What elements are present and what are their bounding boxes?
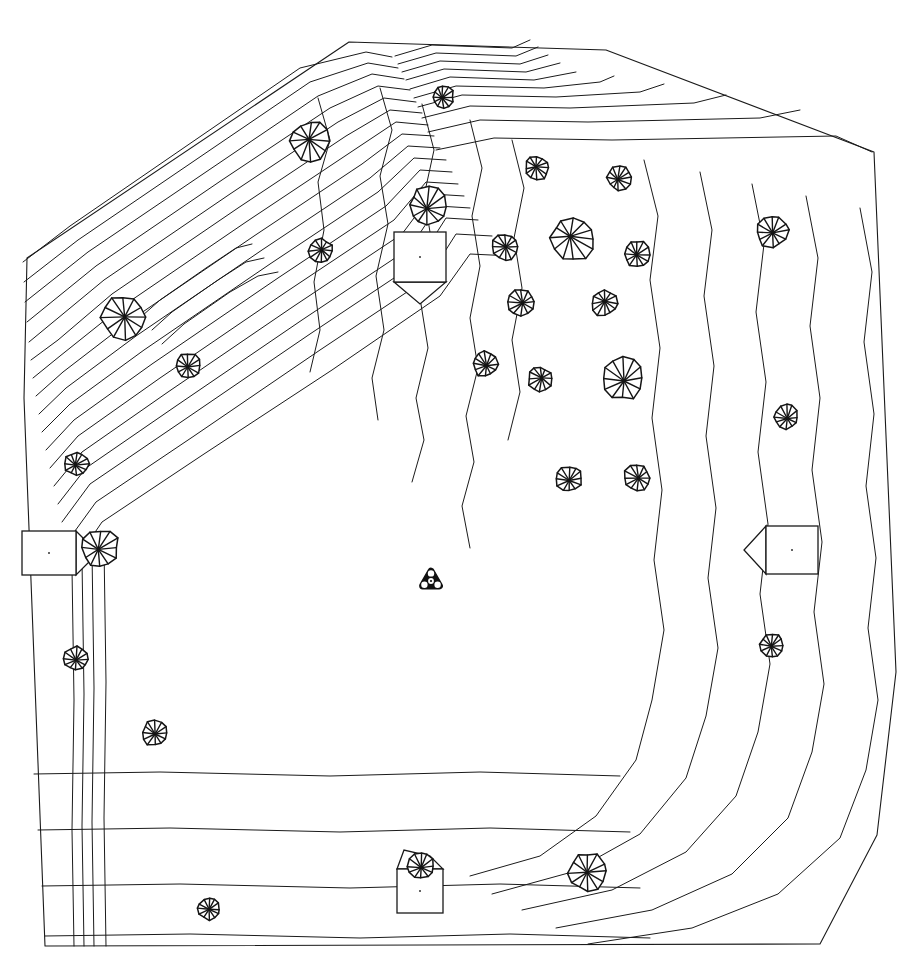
benchmark-lobe — [421, 582, 427, 588]
tree-center-e1[interactable] — [625, 242, 650, 267]
tree-trunk-dot — [425, 207, 428, 210]
benchmark-center-dot — [430, 580, 432, 582]
tree-trunk-dot — [97, 548, 100, 551]
benchmark-lobe — [434, 582, 440, 588]
tree-trunk-dot — [123, 315, 126, 318]
tree-center-s1[interactable] — [556, 467, 581, 490]
tree-southwest[interactable] — [143, 720, 167, 745]
tree-spoke — [787, 418, 797, 419]
tree-center-mid[interactable] — [529, 367, 552, 392]
tree-north-ridge[interactable] — [433, 86, 453, 108]
building-footprint-west-center-dot — [48, 552, 50, 554]
tree-center-w2[interactable] — [508, 290, 534, 316]
building-footprint-east-center-dot — [791, 549, 793, 551]
tree-center-s2[interactable] — [625, 465, 650, 491]
tree-south-house[interactable] — [407, 853, 433, 878]
tree-trunk-dot — [154, 733, 156, 735]
tree-spoke — [100, 317, 125, 318]
tree-trunk-dot — [535, 166, 537, 168]
tree-trunk-dot — [505, 246, 507, 248]
tree-trunk-dot — [441, 97, 443, 99]
benchmark-lobe — [428, 570, 434, 576]
tree-center-n1[interactable] — [526, 157, 548, 180]
tree-trunk-dot — [604, 300, 606, 302]
tree-trunk-dot — [638, 477, 640, 479]
tree-spoke — [773, 233, 774, 248]
tree-spoke — [76, 659, 88, 660]
site-plan-drawing — [0, 0, 913, 967]
tree-spoke — [587, 872, 588, 891]
building-footprint-north-center-dot — [419, 256, 421, 258]
building-footprint-south-center-dot — [419, 890, 421, 892]
tree-trunk-dot — [770, 645, 772, 647]
tree-trunk-dot — [617, 179, 619, 181]
tree-trunk-dot — [568, 480, 570, 482]
tree-trunk-dot — [486, 365, 488, 367]
tree-west-house[interactable] — [82, 531, 118, 566]
tree-spoke — [637, 255, 638, 266]
tree-trunk-dot — [308, 138, 311, 141]
tree-trunk-dot — [208, 908, 210, 910]
tree-spoke — [536, 167, 537, 180]
tree-trunk-dot — [771, 232, 773, 234]
tree-trunk-dot — [636, 254, 638, 256]
tree-spoke — [188, 367, 189, 377]
tree-slope-small[interactable] — [176, 354, 199, 377]
tree-spoke — [529, 378, 541, 379]
tree-trunk-dot — [75, 659, 77, 661]
tree-trunk-dot — [74, 464, 76, 466]
tree-trunk-dot — [522, 302, 524, 304]
tree-near-building-n[interactable] — [410, 186, 446, 225]
site-plan-canvas — [0, 0, 913, 967]
tree-spoke — [155, 720, 156, 734]
tree-trunk-dot — [569, 235, 572, 238]
tree-trunk-dot — [321, 249, 323, 251]
tree-trunk-dot — [586, 871, 589, 874]
tree-trunk-dot — [541, 377, 543, 379]
plan-background — [0, 0, 913, 967]
tree-trunk-dot — [187, 366, 189, 368]
tree-spoke — [125, 317, 126, 341]
tree-trunk-dot — [420, 867, 422, 869]
tree-spoke — [771, 646, 783, 647]
tree-trunk-dot — [623, 380, 626, 383]
tree-trunk-dot — [786, 418, 788, 420]
